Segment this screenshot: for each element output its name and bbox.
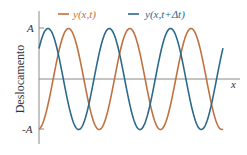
legend-label-y-x-t-dt: y(x,t+Δt) xyxy=(144,8,185,21)
tick-label-minus-A: -A xyxy=(22,123,33,135)
x-axis-label: x xyxy=(230,78,236,90)
chart: y(x,t) y(x,t+Δt) A -A x Deslocamento xyxy=(0,0,247,155)
y-axis-label: Deslocamento xyxy=(13,45,27,114)
legend-label-y-x-t: y(x,t) xyxy=(72,8,96,21)
tick-label-A: A xyxy=(26,22,34,34)
